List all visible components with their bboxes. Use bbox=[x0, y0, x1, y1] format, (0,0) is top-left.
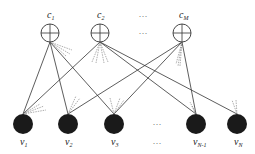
check-node-cM: cM bbox=[173, 9, 191, 42]
variable-nodes: v1v2v3vN-1vN bbox=[13, 114, 247, 148]
check-node-c1: c1 bbox=[41, 9, 59, 42]
edge-c2-v1 bbox=[23, 42, 100, 114]
variable-node-v1: v1 bbox=[13, 114, 33, 148]
check-node-label: cM bbox=[179, 9, 189, 21]
filled-circle-icon bbox=[186, 114, 206, 134]
variable-node-vN-1: vN-1 bbox=[186, 114, 206, 148]
filled-circle-icon bbox=[13, 114, 33, 134]
filled-circle-icon bbox=[58, 114, 78, 134]
dashed-stub bbox=[114, 100, 124, 114]
dashed-stub bbox=[68, 98, 80, 114]
check-node-c2: c2 bbox=[91, 9, 109, 42]
check-nodes: c1c2cM bbox=[41, 9, 191, 42]
dashed-stub bbox=[100, 42, 104, 63]
edges bbox=[23, 42, 237, 114]
dashed-stub bbox=[236, 100, 237, 114]
variable-node-v3: v3 bbox=[104, 114, 124, 148]
variable-node-v2: v2 bbox=[58, 114, 78, 148]
dashed-stub bbox=[50, 42, 66, 56]
factor-graph-diagram: c1c2cM v1v2v3vN-1vN ··· ··· ··· ··· bbox=[0, 0, 255, 154]
variable-node-label: vN-1 bbox=[193, 136, 206, 148]
dashed-stub bbox=[92, 42, 100, 62]
edge-c1-v1 bbox=[23, 42, 50, 114]
bottom-label-ellipsis: ··· bbox=[153, 138, 162, 148]
filled-circle-icon bbox=[227, 114, 247, 134]
dashed-stubs bbox=[23, 42, 237, 114]
variable-node-vN: vN bbox=[227, 114, 247, 148]
filled-circle-icon bbox=[104, 114, 124, 134]
check-node-label: c1 bbox=[47, 9, 54, 21]
edge-cM-vN-1 bbox=[182, 42, 196, 114]
check-node-label: c2 bbox=[97, 9, 104, 21]
top-node-ellipsis: ··· bbox=[139, 28, 148, 38]
edge-c1-v3 bbox=[50, 42, 114, 114]
dashed-stub bbox=[23, 106, 44, 114]
edge-c1-v2 bbox=[50, 42, 68, 114]
variable-node-label: vN bbox=[234, 136, 243, 148]
variable-node-label: v3 bbox=[111, 136, 118, 148]
dashed-stub bbox=[114, 98, 120, 114]
top-label-ellipsis: ··· bbox=[139, 11, 148, 21]
variable-node-label: v1 bbox=[20, 136, 27, 148]
bottom-node-ellipsis: ··· bbox=[153, 119, 162, 129]
edge-cM-v3 bbox=[114, 42, 182, 114]
variable-node-label: v2 bbox=[65, 136, 72, 148]
edge-c2-vN bbox=[100, 42, 237, 114]
edge-cM-v2 bbox=[68, 42, 182, 114]
